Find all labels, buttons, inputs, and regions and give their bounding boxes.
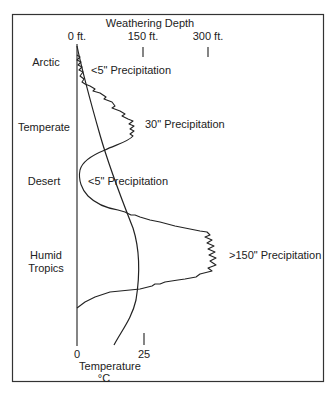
bottom-tick-label-25: 25 [138,348,150,360]
bottom-axis-title: Temperature [79,360,141,372]
annotation-arctic-precip: <5" Precipitation [91,64,171,76]
top-tick-label-150: 150 ft. [128,30,159,42]
zone-label-humid: Humid [30,249,62,261]
bottom-axis-unit: °C [98,372,110,384]
zone-label-desert: Desert [28,175,60,187]
top-tick-label-300: 300 ft. [193,30,224,42]
annotation-temperate-precip: 30" Precipitation [145,118,225,130]
zone-label-tropics: Tropics [28,262,64,274]
weathering-depth-diagram: Weathering Depth 0 ft. 150 ft. 300 ft. A… [0,0,334,396]
zone-label-temperate: Temperate [18,121,70,133]
chart-title: Weathering Depth [106,17,194,29]
annotation-desert-precip: <5" Precipitation [88,175,168,187]
annotation-tropics-precip: >150" Precipitation [229,249,321,261]
temperature-curve [77,46,139,345]
zone-label-arctic: Arctic [32,56,60,68]
top-tick-label-0: 0 ft. [68,30,86,42]
bottom-tick-label-0: 0 [74,348,80,360]
